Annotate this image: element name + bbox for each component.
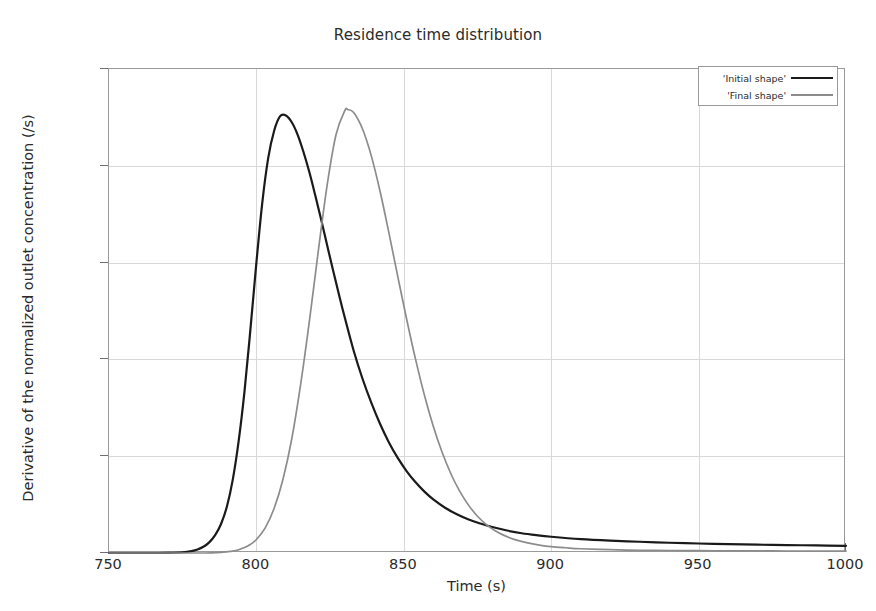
legend-item-final-shape: 'Final shape' [699,86,839,104]
legend-label-initial-shape: 'Initial shape' [723,73,786,84]
chart-legend: 'Initial shape' 'Final shape' [698,66,838,106]
series-line-final-shape [109,108,846,553]
chart-figure: Residence time distribution Derivative o… [0,0,876,611]
x-tick-label: 850 [358,556,448,572]
y-tick-mark [100,552,109,553]
x-tick-label: 900 [505,556,595,572]
legend-swatch-initial-shape [791,77,833,79]
data-curves [109,69,846,553]
series-line-initial-shape [109,115,846,553]
y-axis-label: Derivative of the normalized outlet conc… [20,58,36,558]
plot-area [108,68,845,552]
x-axis-label: Time (s) [108,578,845,594]
x-tick-label: 950 [653,556,743,572]
legend-item-initial-shape: 'Initial shape' [699,69,839,87]
chart-title: Residence time distribution [0,26,876,44]
x-tick-label: 1000 [800,556,876,572]
legend-swatch-final-shape [791,94,833,96]
x-tick-label: 800 [210,556,300,572]
legend-label-final-shape: 'Final shape' [727,90,786,101]
x-tick-label: 750 [63,556,153,572]
